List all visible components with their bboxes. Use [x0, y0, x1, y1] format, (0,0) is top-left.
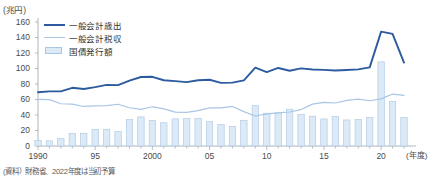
- y-axis-tick-label: 60: [6, 95, 30, 104]
- legend-label-bond-issuance: 国債発行額: [69, 45, 113, 57]
- legend-swatch-line-icon: [44, 32, 65, 43]
- legend-label-expenditure: 一般会計歳出: [69, 19, 121, 31]
- x-axis-unit-label: (年度): [406, 152, 427, 160]
- legend-label-tax-revenue: 一般会計税収: [69, 32, 121, 44]
- x-axis-tick-label: 20: [361, 152, 401, 161]
- x-axis-tick-label: 10: [247, 152, 287, 161]
- legend-swatch-line-icon: [44, 19, 65, 30]
- x-axis-tick-label: 1990: [18, 152, 58, 161]
- x-axis-tick-label: 2000: [132, 152, 172, 161]
- y-axis-tick-label: 120: [6, 49, 30, 58]
- y-axis-tick-label: 140: [6, 33, 30, 42]
- x-axis-tick-label: 05: [190, 152, 230, 161]
- y-axis-tick-label: 160: [6, 18, 30, 27]
- y-axis-tick-label: 20: [6, 126, 30, 135]
- y-axis-tick-label: 0: [6, 142, 30, 151]
- legend-item-bond-issuance: 国債発行額: [44, 45, 121, 56]
- y-axis-unit-label: (兆円): [3, 3, 26, 15]
- y-axis-tick-label: 40: [6, 111, 30, 120]
- y-axis-tick-label: 80: [6, 80, 30, 89]
- chart-legend: 一般会計歳出 一般会計税収 国債発行額: [44, 19, 121, 58]
- y-axis-tick-label: 100: [6, 64, 30, 73]
- legend-item-tax-revenue: 一般会計税収: [44, 32, 121, 43]
- chart-container: (兆円) 020406080100120140160 1990952000051…: [0, 0, 429, 176]
- x-axis-tick-label: 15: [304, 152, 344, 161]
- legend-item-expenditure: 一般会計歳出: [44, 19, 121, 30]
- x-axis-tick-label: 95: [75, 152, 115, 161]
- source-note: (資料）財務省、2022年度は当初予算: [3, 165, 114, 176]
- legend-swatch-bar-icon: [44, 45, 65, 56]
